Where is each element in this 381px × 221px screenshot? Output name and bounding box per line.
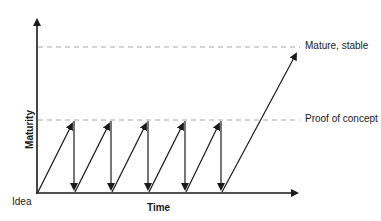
x-axis-label: Time	[147, 202, 170, 213]
maturity-diagram	[0, 0, 381, 221]
mature-stable-label: Mature, stable	[305, 40, 368, 51]
iteration-arrows	[38, 54, 296, 192]
y-axis-label: Maturity	[24, 105, 35, 155]
proof-of-concept-label: Proof of concept	[305, 113, 378, 124]
origin-label: Idea	[12, 196, 31, 207]
